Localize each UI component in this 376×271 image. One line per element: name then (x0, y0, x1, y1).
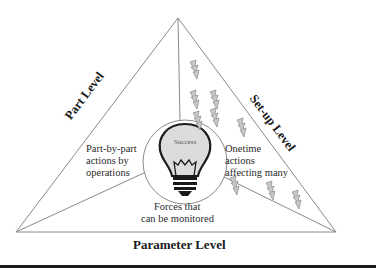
spoke-left (16, 172, 146, 232)
parameter-level-label: Parameter Level (133, 237, 226, 253)
center-label: Success (174, 136, 196, 148)
spoke-top (178, 18, 180, 120)
bottom-rule (0, 265, 376, 268)
spoke-right (222, 176, 336, 232)
